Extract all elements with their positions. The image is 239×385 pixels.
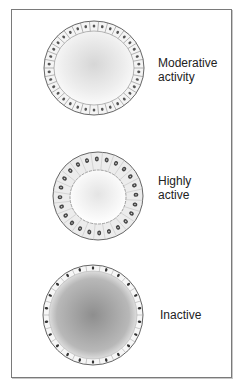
label-line: Highly [158,174,191,188]
follicle-inactive [43,265,143,365]
label-line: activity [158,70,217,84]
follicle-highly-active [53,152,143,240]
follicle-moderate [44,21,144,115]
label-line: active [158,188,191,202]
label-moderate-activity: Moderative activity [158,56,217,84]
label-line: Moderative [158,56,217,70]
label-line: Inactive [160,308,201,322]
label-inactive: Inactive [160,308,201,322]
label-highly-active: Highly active [158,174,191,202]
